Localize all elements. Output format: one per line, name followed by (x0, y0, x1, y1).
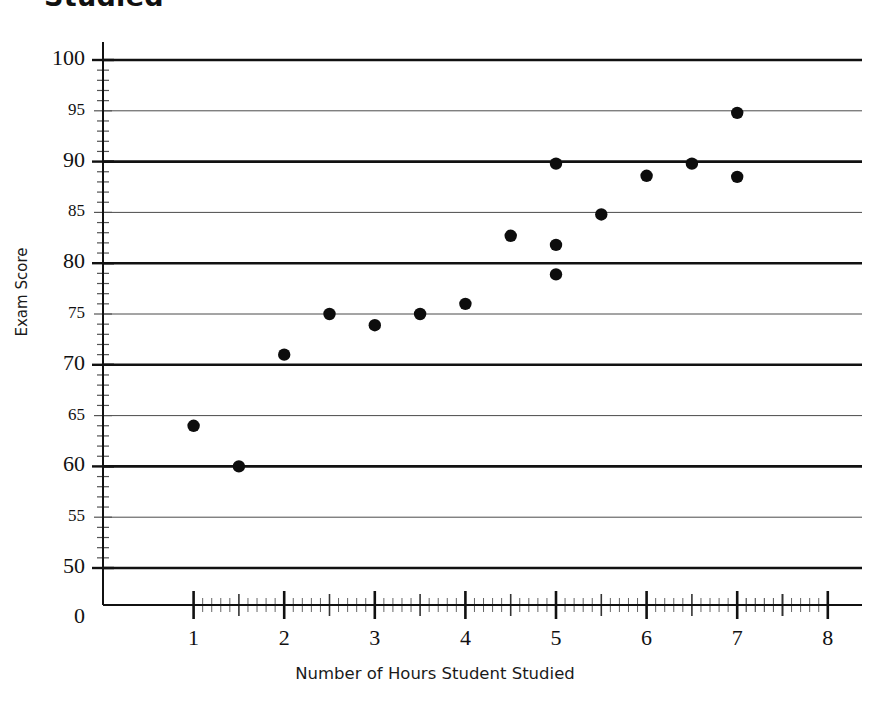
data-point (233, 460, 245, 472)
x-axis-title: Number of Hours Student Studied (0, 664, 870, 683)
data-point (595, 208, 607, 220)
data-point (505, 230, 517, 242)
y-tick-label-70: 70 (63, 350, 85, 375)
data-point (640, 170, 652, 182)
x-tick-label-1: 1 (188, 625, 199, 650)
gridlines-group (103, 60, 862, 568)
axis-spines-group (103, 60, 862, 605)
y-tick-label-90: 90 (63, 147, 85, 172)
x-tick-label-3: 3 (369, 625, 380, 650)
y-tick-labels-group: 505560657075808590951000 (52, 45, 85, 628)
data-point (323, 308, 335, 320)
y-tick-label-95: 95 (68, 100, 85, 119)
y-tick-label-50: 50 (63, 553, 85, 578)
y-tick-label-65: 65 (68, 405, 85, 424)
x-tick-label-5: 5 (551, 625, 562, 650)
x-tick-label-2: 2 (279, 625, 290, 650)
x-tick-label-4: 4 (460, 625, 471, 650)
data-point (278, 348, 290, 360)
data-point (369, 319, 381, 331)
x-tick-label-7: 7 (732, 625, 743, 650)
y-tick-label-85: 85 (68, 201, 85, 220)
data-point (550, 157, 562, 169)
data-point (550, 239, 562, 251)
data-point (459, 298, 471, 310)
data-point (731, 171, 743, 183)
x-tick-label-8: 8 (822, 625, 833, 650)
data-point (550, 268, 562, 280)
y-tick-label-100: 100 (52, 45, 85, 70)
chart-page: Studied Exam Score 505560657075808590951… (0, 0, 870, 713)
scatter-plot: 505560657075808590951000 12345678 (0, 0, 870, 713)
y-tick-label-0: 0 (74, 603, 85, 628)
data-point (414, 308, 426, 320)
data-point (187, 420, 199, 432)
x-tick-label-6: 6 (641, 625, 652, 650)
data-point (686, 157, 698, 169)
y-tick-label-80: 80 (63, 248, 85, 273)
y-tick-label-75: 75 (68, 303, 85, 322)
y-tick-label-60: 60 (63, 451, 85, 476)
data-point (731, 107, 743, 119)
y-tick-label-55: 55 (68, 506, 85, 525)
x-tick-labels-group: 12345678 (188, 625, 833, 650)
